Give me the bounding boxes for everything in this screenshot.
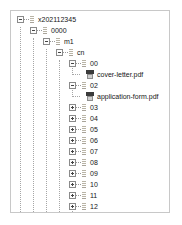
- tree-node-label: cn-regional.xml: [86, 212, 133, 213]
- tree-folder-row[interactable]: 09: [11, 168, 169, 179]
- tree-folder-row[interactable]: 03: [11, 102, 169, 113]
- tree-node-label: 09: [90, 168, 98, 179]
- tree-node-label: 04: [90, 113, 98, 124]
- tree-folder-row[interactable]: cn: [11, 47, 169, 58]
- tree-folder-row[interactable]: 00: [11, 58, 169, 69]
- tree-node-label: m1: [64, 36, 74, 47]
- minus-box-icon[interactable]: [69, 82, 76, 89]
- plus-box-icon[interactable]: [69, 137, 76, 144]
- folder-icon: [81, 82, 87, 90]
- tree-node-label: 0000: [51, 25, 67, 36]
- tree-connector-elbow: [72, 68, 80, 75]
- folder-icon: [81, 137, 87, 145]
- minus-box-icon[interactable]: [69, 60, 76, 67]
- tree-folder-row[interactable]: 02: [11, 80, 169, 91]
- file-tree-panel: x2021123450000m1cn00cover-letter.pdf02ap…: [10, 10, 170, 213]
- tree-connector-elbow: [72, 90, 80, 97]
- tree-node-label: 06: [90, 135, 98, 146]
- tree-node-label: 11: [90, 190, 97, 201]
- pdf-file-icon: [86, 92, 94, 101]
- tree-connector-elbow: [72, 211, 80, 213]
- tree-node-label: 10: [90, 179, 98, 190]
- folder-icon: [29, 16, 35, 24]
- plus-box-icon[interactable]: [69, 159, 76, 166]
- folder-icon: [81, 181, 87, 189]
- folder-icon: [42, 27, 48, 35]
- folder-icon: [81, 148, 87, 156]
- folder-icon: [81, 203, 87, 211]
- folder-icon: [68, 49, 74, 57]
- tree-node-label: cover-letter.pdf: [97, 69, 143, 80]
- tree-node-label: 12: [90, 201, 98, 212]
- minus-box-icon[interactable]: [43, 38, 50, 45]
- tree-node-label: 03: [90, 102, 98, 113]
- tree-file-row[interactable]: cn-regional.xml: [11, 212, 169, 213]
- tree-folder-row[interactable]: 10: [11, 179, 169, 190]
- plus-box-icon[interactable]: [69, 148, 76, 155]
- tree-node-label: application-form.pdf: [97, 91, 158, 102]
- minus-box-icon[interactable]: [30, 27, 37, 34]
- folder-icon: [81, 192, 87, 200]
- tree-folder-row[interactable]: 05: [11, 124, 169, 135]
- tree-folder-row[interactable]: x202112345: [11, 14, 169, 25]
- folder-icon: [81, 115, 87, 123]
- tree-node-label: 08: [90, 157, 98, 168]
- tree-node-label: 05: [90, 124, 98, 135]
- tree-file-row[interactable]: cover-letter.pdf: [11, 69, 169, 80]
- plus-box-icon[interactable]: [69, 203, 76, 210]
- folder-icon: [81, 170, 87, 178]
- tree-file-row[interactable]: application-form.pdf: [11, 91, 169, 102]
- tree-node-label: 07: [90, 146, 98, 157]
- plus-box-icon[interactable]: [69, 170, 76, 177]
- plus-box-icon[interactable]: [69, 192, 76, 199]
- tree-folder-row[interactable]: 08: [11, 157, 169, 168]
- tree-folder-row[interactable]: 07: [11, 146, 169, 157]
- tree-folder-row[interactable]: 11: [11, 190, 169, 201]
- folder-icon: [81, 126, 87, 134]
- tree-folder-row[interactable]: 04: [11, 113, 169, 124]
- tree-node-label: x202112345: [38, 14, 76, 25]
- plus-box-icon[interactable]: [69, 104, 76, 111]
- folder-icon: [81, 159, 87, 167]
- folder-icon: [55, 38, 61, 46]
- tree-folder-row[interactable]: m1: [11, 36, 169, 47]
- folder-icon: [81, 60, 87, 68]
- tree-folder-row[interactable]: 12: [11, 201, 169, 212]
- file-tree[interactable]: x2021123450000m1cn00cover-letter.pdf02ap…: [11, 11, 169, 213]
- tree-node-label: cn: [77, 47, 84, 58]
- plus-box-icon[interactable]: [69, 126, 76, 133]
- tree-folder-row[interactable]: 06: [11, 135, 169, 146]
- plus-box-icon[interactable]: [69, 181, 76, 188]
- pdf-file-icon: [86, 70, 94, 79]
- tree-node-label: 02: [90, 80, 98, 91]
- plus-box-icon[interactable]: [69, 115, 76, 122]
- folder-icon: [81, 104, 87, 112]
- minus-box-icon[interactable]: [56, 49, 63, 56]
- minus-box-icon[interactable]: [17, 16, 24, 23]
- tree-folder-row[interactable]: 0000: [11, 25, 169, 36]
- tree-node-label: 00: [90, 58, 98, 69]
